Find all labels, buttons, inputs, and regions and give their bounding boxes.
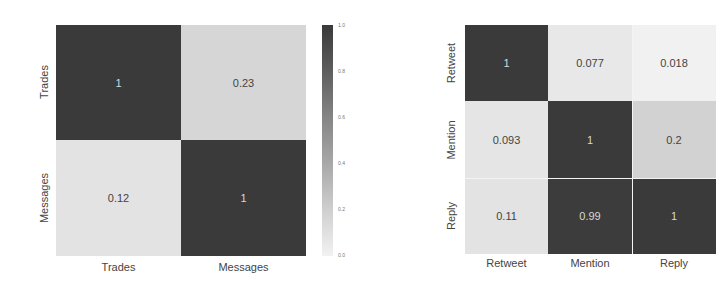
- x-tick-label: Retweet: [465, 257, 548, 269]
- cell-messages-trades: 0.12: [56, 140, 181, 256]
- cell-reply-mention: 0.99: [548, 178, 632, 254]
- cell-value: 1: [115, 77, 121, 89]
- cell-value: 1: [587, 134, 593, 146]
- colorbar: [322, 25, 333, 256]
- grid-line: [465, 178, 716, 179]
- x-tick-label: Mention: [548, 257, 632, 269]
- y-tick-label: Trades: [38, 47, 52, 117]
- cell-retweet-retweet: 1: [465, 25, 548, 101]
- colorbar-tick: 0.8: [338, 68, 345, 74]
- cell-value: 0.093: [493, 134, 521, 146]
- cell-value: 0.11: [496, 210, 517, 222]
- y-tick-label: Messages: [38, 163, 52, 233]
- left-heatmap: 1 0.23 0.12 1: [56, 25, 306, 256]
- cell-retweet-reply: 0.018: [632, 25, 716, 101]
- cell-reply-reply: 1: [632, 178, 716, 254]
- right-heatmap: 1 0.077 0.018 0.093 1 0.2 0.11 0.99 1: [465, 25, 716, 254]
- colorbar-tick: 0.2: [338, 206, 345, 212]
- x-tick-label: Messages: [181, 261, 306, 273]
- cell-messages-messages: 1: [181, 140, 306, 256]
- grid-line: [632, 25, 633, 254]
- cell-value: 1: [240, 192, 246, 204]
- x-tick-label: Reply: [632, 257, 716, 269]
- cell-value: 0.23: [233, 77, 254, 89]
- cell-value: 0.018: [660, 57, 688, 69]
- cell-mention-mention: 1: [548, 101, 632, 178]
- colorbar-tick: 0.0: [338, 252, 345, 258]
- cell-retweet-mention: 0.077: [548, 25, 632, 101]
- left-heatmap-panel: 1 0.23 0.12 1 Trades Messages Trades Mes…: [0, 0, 360, 284]
- colorbar-tick: 0.6: [338, 114, 345, 120]
- right-heatmap-panel: 1 0.077 0.018 0.093 1 0.2 0.11 0.99 1 Re…: [360, 0, 693, 284]
- cell-value: 1: [671, 210, 677, 222]
- cell-reply-retweet: 0.11: [465, 178, 548, 254]
- cell-value: 0.12: [108, 192, 129, 204]
- cell-mention-reply: 0.2: [632, 101, 716, 178]
- cell-trades-trades: 1: [56, 25, 181, 140]
- y-tick-label: Reply: [445, 186, 459, 246]
- cell-trades-messages: 0.23: [181, 25, 306, 140]
- cell-value: 0.2: [666, 134, 681, 146]
- cell-mention-retweet: 0.093: [465, 101, 548, 178]
- cell-value: 0.077: [576, 57, 604, 69]
- cell-value: 1: [503, 57, 509, 69]
- x-tick-label: Trades: [56, 261, 181, 273]
- y-tick-label: Retweet: [445, 33, 459, 93]
- colorbar-tick: 1.0: [338, 22, 345, 28]
- colorbar-tick: 0.4: [338, 160, 345, 166]
- y-tick-label: Mention: [445, 110, 459, 170]
- cell-value: 0.99: [579, 210, 600, 222]
